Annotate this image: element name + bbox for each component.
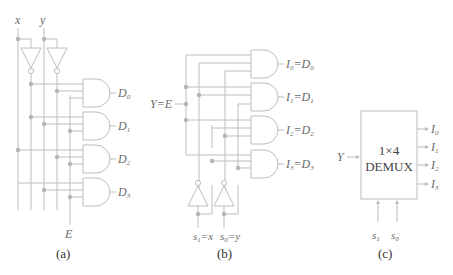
output-i1-label: I1=D1	[285, 90, 314, 105]
inversion-bubble-icon	[28, 68, 33, 73]
panel-c: 1×4 DEMUX Y I0 I1 I2 I3 s1 s0 (c)	[337, 111, 439, 261]
and-gate-icon	[83, 112, 110, 140]
input-x-label: x	[14, 13, 21, 27]
not-gate-icon	[47, 48, 67, 68]
caption-c: (c)	[378, 246, 392, 261]
panel-a: x y D0	[14, 13, 131, 261]
demux-select-s1-label: s1	[372, 229, 380, 243]
inversion-bubble-icon	[221, 180, 226, 185]
arrow-right-icon	[356, 155, 360, 159]
arrow-right-icon	[425, 163, 429, 167]
demux-output-i1-label: I1	[430, 140, 439, 155]
not-gate-icon	[214, 186, 234, 206]
output-d3-label: D3	[117, 185, 131, 200]
demux-input-label: Y	[337, 150, 345, 164]
demux-diagram: x y D0	[0, 0, 453, 275]
and-gate-icon	[83, 178, 110, 206]
output-i0-label: I0=D0	[285, 57, 314, 72]
inversion-bubble-icon	[54, 68, 59, 73]
not-gate-icon	[188, 186, 208, 206]
output-d1-label: D1	[117, 119, 130, 134]
select-s1-label: s1=x	[193, 230, 213, 244]
inversion-bubble-icon	[195, 180, 200, 185]
demux-output-i0-label: I0	[430, 122, 439, 137]
enable-label: E	[64, 227, 73, 241]
input-y-label: y	[39, 13, 46, 27]
select-s0-label: s0=y	[220, 230, 240, 244]
demux-name-label: DEMUX	[365, 159, 413, 174]
and-gate-icon	[251, 150, 278, 178]
arrow-up-icon	[395, 200, 399, 204]
arrow-right-icon	[425, 127, 429, 131]
output-d2-label: D2	[117, 152, 131, 167]
arrow-right-icon	[425, 182, 429, 186]
arrow-right-icon	[425, 145, 429, 149]
caption-a: (a)	[56, 246, 70, 261]
output-i2-label: I2=D2	[285, 123, 314, 138]
junction-dot	[16, 37, 20, 41]
and-gate-icon	[251, 83, 278, 111]
caption-b: (b)	[217, 246, 232, 261]
and-gate-icon	[251, 116, 278, 144]
and-gate-icon	[83, 79, 110, 107]
junction-dot	[42, 37, 46, 41]
panel-b: Y=E	[150, 50, 314, 261]
output-d0-label: D0	[117, 86, 131, 101]
demux-output-i2-label: I2	[430, 158, 439, 173]
and-gate-icon	[251, 50, 278, 78]
demux-size-label: 1×4	[379, 143, 400, 158]
and-gate-icon	[83, 145, 110, 173]
data-input-label: Y=E	[150, 97, 173, 111]
demux-select-s0-label: s0	[391, 229, 399, 243]
output-i3-label: I3=D3	[285, 157, 314, 172]
demux-output-i3-label: I3	[430, 177, 439, 192]
arrow-up-icon	[376, 200, 380, 204]
not-gate-icon	[21, 48, 41, 68]
